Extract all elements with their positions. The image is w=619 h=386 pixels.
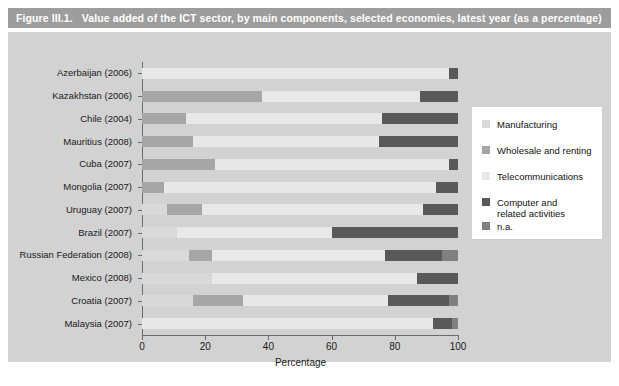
figure-title: Figure III.1.Value added of the ICT sect… [16, 12, 602, 24]
legend-item[interactable]: Telecommunications [482, 171, 583, 182]
y-axis-tick [138, 164, 142, 165]
chart-panel: Azerbaijan (2006)Kazakhstan (2006)Chile … [8, 32, 611, 362]
y-axis-tick [138, 142, 142, 143]
bar-segment [449, 295, 458, 306]
x-axis-tick-label: 0 [139, 341, 145, 352]
x-axis-title: Percentage [142, 357, 459, 368]
bar-group [142, 273, 458, 284]
bar-segment [142, 182, 164, 193]
y-axis-labels: Azerbaijan (2006)Kazakhstan (2006)Chile … [8, 62, 138, 335]
bar-group [142, 113, 458, 124]
plot-area [142, 62, 458, 335]
y-axis-label: Chile (2004) [80, 114, 132, 124]
bar-group [142, 204, 458, 215]
legend-item[interactable]: Wholesale and renting [482, 145, 592, 156]
bar-segment [215, 159, 449, 170]
figure-title-bar: Figure III.1.Value added of the ICT sect… [8, 8, 611, 28]
bar-segment [388, 295, 448, 306]
bar-segment [212, 273, 417, 284]
bar-segment [193, 295, 244, 306]
x-axis-tick [268, 336, 269, 340]
legend-swatch-icon [482, 172, 490, 180]
bar-segment [423, 204, 458, 215]
legend-item[interactable]: n.a. [482, 221, 513, 232]
bar-segment [202, 204, 423, 215]
bar-segment [449, 159, 458, 170]
y-axis-label: Mongolia (2007) [63, 182, 132, 192]
bar-segment [452, 318, 458, 329]
y-axis-label: Mexico (2008) [72, 273, 132, 283]
y-axis-label: Croatia (2007) [71, 296, 132, 306]
legend-label: n.a. [497, 221, 513, 232]
bar-segment [385, 250, 442, 261]
y-axis-label: Uruguay (2007) [66, 205, 132, 215]
bar-segment [142, 136, 193, 147]
legend-label: Telecommunications [497, 171, 583, 182]
figure-number: Figure III.1. [16, 12, 73, 24]
x-axis-tick [142, 336, 143, 340]
legend-label: Manufacturing [497, 119, 557, 130]
bar-segment [142, 159, 215, 170]
y-axis-tick [138, 301, 142, 302]
chart-legend: ManufacturingWholesale and rentingTeleco… [472, 107, 602, 239]
x-axis-tick-label: 80 [389, 341, 400, 352]
y-axis-label: Malaysia (2007) [64, 319, 132, 329]
bar-group [142, 227, 458, 238]
bar-group [142, 91, 458, 102]
bar-segment [436, 182, 458, 193]
y-axis-label: Kazakhstan (2006) [52, 91, 132, 101]
y-axis-label: Azerbaijan (2006) [57, 68, 132, 78]
bar-group [142, 182, 458, 193]
y-axis-tick [138, 210, 142, 211]
legend-item[interactable]: Manufacturing [482, 119, 557, 130]
bar-segment [186, 113, 382, 124]
x-axis-tick-label: 100 [450, 341, 467, 352]
bar-group [142, 136, 458, 147]
legend-swatch-icon [482, 198, 490, 206]
bar-segment [177, 227, 332, 238]
bar-segment [417, 273, 458, 284]
bar-group [142, 318, 458, 329]
bar-segment [142, 273, 212, 284]
bar-segment [332, 227, 458, 238]
y-axis-tick [138, 187, 142, 188]
y-axis-tick [138, 96, 142, 97]
x-axis-tick-label: 40 [263, 341, 274, 352]
y-axis-tick [138, 73, 142, 74]
bar-segment [262, 91, 420, 102]
bar-group [142, 68, 458, 79]
x-axis-tick [205, 336, 206, 340]
bar-segment [164, 182, 436, 193]
y-axis-label: Cuba (2007) [79, 159, 132, 169]
bar-segment [212, 250, 386, 261]
bar-segment [442, 250, 458, 261]
legend-item[interactable]: Computer and related activities [482, 197, 565, 219]
x-axis-tick [332, 336, 333, 340]
legend-swatch-icon [482, 222, 490, 230]
x-axis-line [142, 335, 459, 336]
bar-segment [420, 91, 458, 102]
bar-segment [433, 318, 452, 329]
bar-segment [142, 227, 177, 238]
bar-segment [189, 250, 211, 261]
y-axis-label: Brazil (2007) [78, 228, 132, 238]
bar-segment [142, 113, 186, 124]
bar-segment [142, 318, 433, 329]
legend-swatch-icon [482, 146, 490, 154]
bar-segment [142, 250, 189, 261]
x-axis-tick [395, 336, 396, 340]
bar-segment [142, 204, 167, 215]
bar-segment [142, 295, 193, 306]
legend-label: Wholesale and renting [497, 145, 592, 156]
x-axis-tick-label: 20 [200, 341, 211, 352]
x-axis-tick-label: 60 [326, 341, 337, 352]
bar-segment [243, 295, 388, 306]
bar-group [142, 250, 458, 261]
y-axis-tick [138, 233, 142, 234]
bar-segment [142, 68, 449, 79]
figure-container: Figure III.1.Value added of the ICT sect… [0, 0, 619, 386]
bar-segment [167, 204, 202, 215]
bar-segment [379, 136, 458, 147]
bar-group [142, 159, 458, 170]
y-axis-tick [138, 119, 142, 120]
